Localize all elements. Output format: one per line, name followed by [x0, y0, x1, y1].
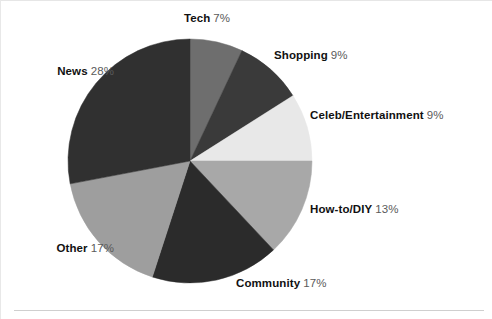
- pie-label-shopping-name: Shopping: [274, 49, 328, 61]
- pie-label-shopping: Shopping9%: [274, 48, 414, 62]
- pie-label-how-to-diy: How-to/DIY13%: [310, 202, 450, 216]
- pie-label-tech-name: Tech: [184, 12, 210, 24]
- pie-label-how-to-diy-name: How-to/DIY: [310, 203, 372, 215]
- pie-label-news-name: News: [57, 65, 87, 77]
- pie-label-other-name: Other: [57, 242, 88, 254]
- pie-label-community-value: 17%: [303, 277, 326, 289]
- pie-label-other: Other17%: [4, 241, 114, 255]
- pie-label-tech-value: 7%: [213, 12, 230, 24]
- pie-label-celeb-entertainment: Celeb/Entertainment9%: [310, 108, 488, 122]
- pie-label-shopping-value: 9%: [331, 49, 348, 61]
- pie-label-community-name: Community: [236, 277, 300, 289]
- pie-slice-news: [68, 39, 190, 184]
- pie-slices-group: [0, 0, 492, 319]
- pie-label-news-value: 28%: [91, 65, 114, 77]
- pie-label-tech: Tech7%: [148, 11, 266, 25]
- pie-label-community: Community17%: [236, 276, 386, 290]
- pie-label-celeb-entertainment-name: Celeb/Entertainment: [310, 109, 424, 121]
- pie-label-how-to-diy-value: 13%: [375, 203, 398, 215]
- pie-label-news: News28%: [4, 64, 114, 78]
- pie-label-celeb-entertainment-value: 9%: [427, 109, 444, 121]
- pie-label-other-value: 17%: [91, 242, 114, 254]
- pie-chart-figure: Tech7% Shopping9% Celeb/Entertainment9% …: [0, 0, 492, 319]
